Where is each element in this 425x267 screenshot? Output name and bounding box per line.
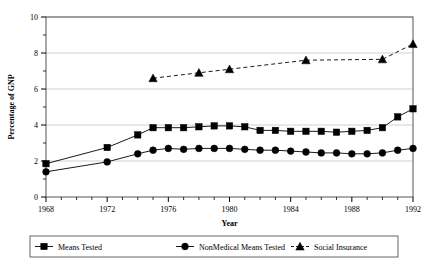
data-point-1-13: [303, 149, 310, 156]
data-point-0-4: [165, 125, 171, 131]
data-point-1-4: [165, 145, 172, 152]
x-axis-title: Year: [222, 219, 238, 228]
data-point-1-16: [348, 150, 355, 157]
x-tick-label-1980: 1980: [222, 205, 238, 214]
y-tick-label-8: 8: [34, 49, 38, 58]
chart-container: 0246810 1968197219761980198419881992 Per…: [0, 0, 425, 267]
data-point-1-7: [211, 145, 218, 152]
data-point-1-10: [257, 147, 264, 154]
x-tick-label-1968: 1968: [38, 205, 54, 214]
y-tick-label-10: 10: [30, 13, 38, 22]
x-tick-label-1984: 1984: [283, 205, 299, 214]
data-point-0-14: [318, 128, 324, 134]
data-point-1-5: [180, 146, 187, 153]
legend-marker-square-icon: [41, 243, 47, 249]
data-point-0-0: [43, 161, 49, 167]
x-tick-label-1988: 1988: [344, 205, 360, 214]
data-point-0-9: [242, 124, 248, 130]
data-point-1-14: [318, 150, 325, 157]
data-point-1-1: [104, 159, 111, 166]
y-axis-title-group: Percentage of GNP: [7, 74, 16, 139]
legend-label-1: NonMedical Means Tested: [199, 243, 285, 252]
data-point-0-15: [333, 129, 339, 135]
x-tick-label-1972: 1972: [99, 205, 115, 214]
data-point-1-6: [196, 145, 203, 152]
data-point-1-18: [379, 150, 386, 157]
data-point-0-3: [150, 125, 156, 131]
data-point-0-11: [272, 127, 278, 133]
data-point-1-9: [241, 146, 248, 153]
legend-label-2: Social Insurance: [314, 243, 368, 252]
data-point-0-1: [104, 144, 110, 150]
data-point-1-17: [364, 150, 371, 157]
data-point-0-5: [180, 125, 186, 131]
data-point-1-8: [226, 145, 233, 152]
data-point-0-18: [379, 125, 385, 131]
x-tick-label-1992: 1992: [405, 205, 421, 214]
data-point-0-19: [395, 114, 401, 120]
data-point-0-20: [410, 106, 416, 112]
x-axis-title-group: Year: [222, 219, 238, 228]
data-point-0-7: [211, 123, 217, 129]
data-point-0-13: [303, 128, 309, 134]
chart-background: [0, 0, 425, 267]
y-tick-label-0: 0: [34, 193, 38, 202]
y-tick-label-2: 2: [34, 157, 38, 166]
data-point-0-16: [349, 128, 355, 134]
legend-label-0: Means Tested: [58, 243, 102, 252]
data-point-1-15: [333, 150, 340, 157]
data-point-1-0: [43, 168, 50, 175]
data-point-1-12: [287, 148, 294, 155]
x-tick-label-1976: 1976: [160, 205, 176, 214]
y-tick-label-6: 6: [34, 85, 38, 94]
data-point-1-20: [410, 145, 417, 152]
data-point-1-11: [272, 147, 279, 154]
legend-marker-circle-icon: [182, 243, 189, 250]
gnp-percentage-line-chart: 0246810 1968197219761980198419881992 Per…: [0, 0, 425, 267]
data-point-0-6: [196, 124, 202, 130]
data-point-1-3: [150, 147, 157, 154]
data-point-0-10: [257, 127, 263, 133]
data-point-1-2: [134, 150, 141, 157]
y-tick-label-4: 4: [34, 121, 38, 130]
chart-legend: Means TestedNonMedical Means TestedSocia…: [30, 236, 398, 257]
data-point-0-2: [135, 132, 141, 138]
data-point-0-17: [364, 127, 370, 133]
data-point-1-19: [394, 147, 401, 154]
data-point-0-8: [226, 123, 232, 129]
data-point-0-12: [287, 128, 293, 134]
y-axis-title: Percentage of GNP: [7, 74, 16, 139]
